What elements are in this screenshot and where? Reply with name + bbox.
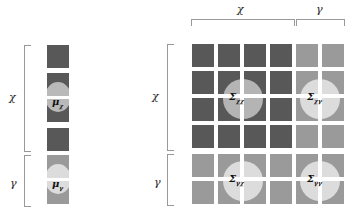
mu-x-symbol: μχ bbox=[52, 96, 63, 109]
bracket-y-top bbox=[296, 19, 345, 26]
matrix-cell bbox=[270, 44, 292, 67]
vector-cell bbox=[47, 128, 69, 151]
matrix-cell bbox=[244, 125, 266, 148]
matrix-cell bbox=[192, 98, 214, 121]
matrix-cell bbox=[322, 125, 344, 148]
matrix-cell bbox=[218, 44, 240, 67]
bracket-x-side bbox=[167, 44, 174, 151]
bracket-x-top bbox=[191, 19, 295, 26]
bracket-y-left bbox=[24, 155, 31, 207]
sigma-xx-symbol: Σχχ bbox=[229, 91, 244, 104]
matrix-cell bbox=[270, 98, 292, 121]
matrix-cell bbox=[322, 44, 344, 67]
row-label-y: γ bbox=[154, 176, 161, 189]
matrix-cell bbox=[192, 71, 214, 94]
col-label-y: γ bbox=[316, 3, 323, 16]
vector-cell bbox=[47, 45, 69, 68]
row-label-x: χ bbox=[152, 90, 159, 103]
sigma-yy-symbol: Σγγ bbox=[307, 173, 322, 186]
matrix-cell bbox=[192, 44, 214, 67]
sigma-xy-symbol: Σχγ bbox=[307, 91, 322, 104]
matrix-cell bbox=[192, 154, 214, 177]
matrix-cell bbox=[296, 125, 318, 148]
mu-y-symbol: μγ bbox=[52, 178, 63, 191]
col-label-x: χ bbox=[237, 3, 244, 16]
matrix-cell bbox=[296, 44, 318, 67]
matrix-cell bbox=[270, 125, 292, 148]
label-x: χ bbox=[9, 91, 16, 104]
bracket-y-side bbox=[167, 154, 174, 206]
bracket-x-left bbox=[24, 45, 31, 152]
matrix-cell bbox=[244, 44, 266, 67]
matrix-cell bbox=[192, 181, 214, 204]
matrix-cell bbox=[270, 71, 292, 94]
matrix-cell bbox=[192, 125, 214, 148]
sigma-yx-symbol: Σγχ bbox=[229, 173, 244, 186]
matrix-cell bbox=[218, 125, 240, 148]
matrix-cell bbox=[270, 181, 292, 204]
label-y: γ bbox=[10, 177, 17, 190]
matrix-cell bbox=[270, 154, 292, 177]
